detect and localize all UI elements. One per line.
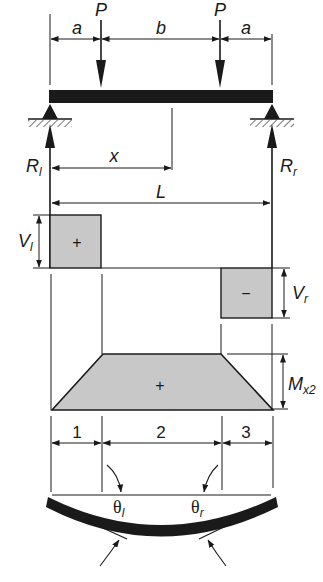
theta-left-arrow-bottom-icon bbox=[100, 540, 119, 566]
point-loads: P P bbox=[95, 0, 226, 88]
label-a-right: a bbox=[241, 18, 251, 38]
support-right-icon bbox=[250, 104, 294, 127]
beam-diagram: a b a P P Rl Rr bbox=[0, 0, 323, 582]
label-theta-right: θr bbox=[191, 497, 205, 520]
reaction-label-left: Rl bbox=[26, 156, 42, 179]
deflection-diagram: θl θr bbox=[46, 465, 278, 566]
load-arrow-right-icon bbox=[215, 20, 225, 88]
x-dimension: x bbox=[52, 108, 172, 170]
label-a-left: a bbox=[72, 18, 82, 38]
theta-left-arrow-top-icon bbox=[107, 465, 121, 492]
L-dimension: L bbox=[52, 182, 270, 203]
deflected-beam bbox=[46, 497, 278, 537]
top-dimensions: a b a bbox=[50, 14, 272, 85]
support-left-icon bbox=[28, 104, 72, 127]
load-label-left: P bbox=[95, 0, 107, 20]
shear-sign-positive: + bbox=[72, 234, 81, 251]
theta-right-arrow-bottom-icon bbox=[208, 540, 226, 566]
segment-dimensions: 1 2 3 bbox=[52, 423, 272, 443]
shear-sign-negative: − bbox=[241, 285, 250, 302]
beam bbox=[49, 90, 273, 103]
moment-sign: + bbox=[155, 377, 164, 394]
reaction-right: Rr bbox=[267, 124, 298, 268]
label-b: b bbox=[156, 18, 166, 38]
moment-diagram: + Mx2 bbox=[52, 354, 316, 410]
theta-right-arrow-top-icon bbox=[204, 465, 218, 492]
label-x: x bbox=[109, 146, 120, 166]
reaction-label-right: Rr bbox=[280, 156, 298, 179]
load-label-right: P bbox=[214, 0, 226, 20]
segment-label-1: 1 bbox=[72, 423, 81, 442]
label-Vr: Vr bbox=[292, 283, 309, 306]
shear-diagram: + − Vl Vr bbox=[18, 215, 309, 318]
load-arrow-left-icon bbox=[96, 20, 106, 88]
label-L: L bbox=[156, 182, 166, 202]
label-Mx2: Mx2 bbox=[288, 374, 316, 397]
segment-label-2: 2 bbox=[156, 423, 165, 442]
label-theta-left: θl bbox=[113, 497, 125, 520]
segment-label-3: 3 bbox=[241, 423, 250, 442]
label-Vl: Vl bbox=[18, 231, 33, 254]
